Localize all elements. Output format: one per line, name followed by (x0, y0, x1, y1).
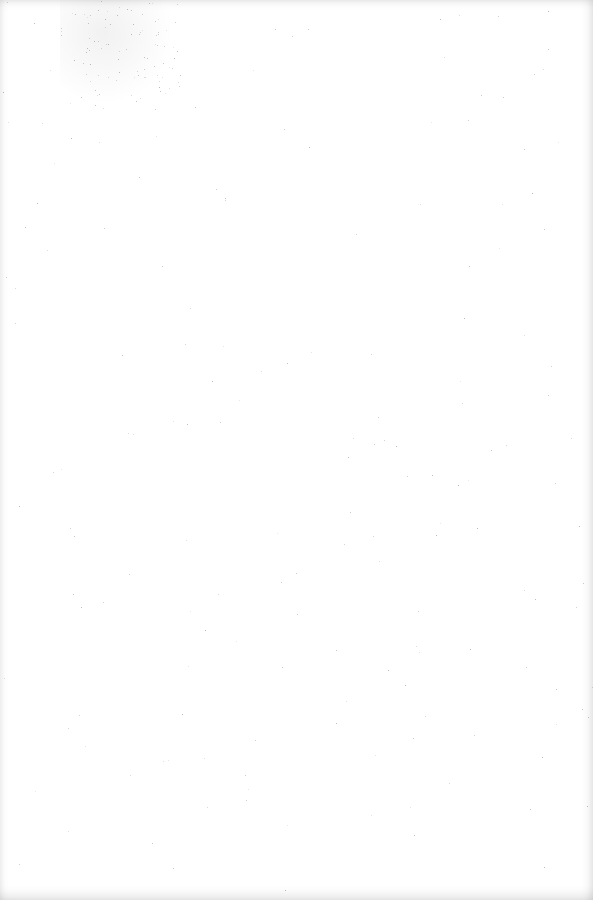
scan-noise (0, 0, 593, 900)
speckle-cluster (60, 0, 170, 110)
edge-shading (0, 0, 593, 900)
blank-page (0, 0, 593, 900)
